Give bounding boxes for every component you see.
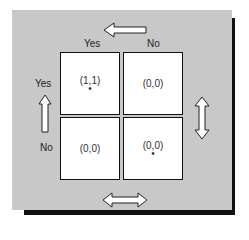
cell-yes-yes: (1,1) • — [60, 52, 120, 115]
col-label-yes: Yes — [84, 38, 100, 49]
row-label-yes: Yes — [35, 78, 51, 89]
cell-yes-no: (0,0) — [123, 52, 183, 115]
equilibrium-dot: • — [88, 86, 92, 92]
cell-no-yes: (0,0) — [60, 117, 120, 180]
row-label-no: No — [40, 142, 53, 153]
arrow-left-icon — [102, 22, 148, 38]
equilibrium-dot: • — [151, 151, 155, 157]
arrow-leftright-icon — [102, 192, 148, 208]
arrow-updown-icon — [194, 96, 210, 140]
cell-no-no: (0,0) • — [123, 117, 183, 180]
arrow-up-icon — [38, 94, 52, 134]
col-label-no: No — [147, 38, 160, 49]
